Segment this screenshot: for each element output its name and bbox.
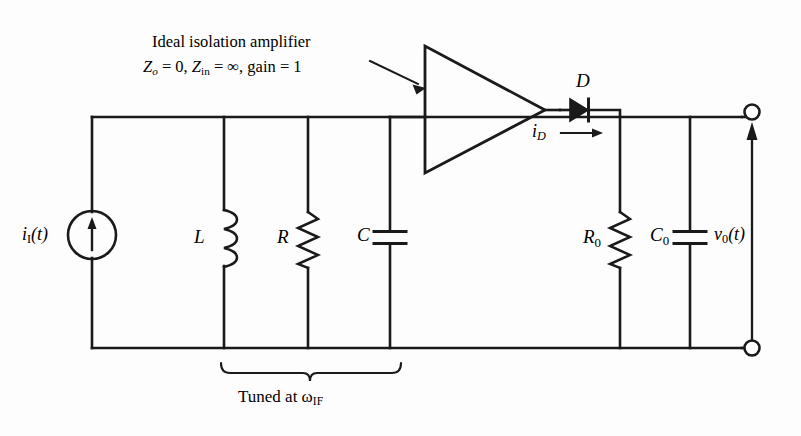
output-voltage-time: (t) (728, 224, 745, 244)
amplifier-triangle (425, 46, 545, 173)
amplifier-annotation-line1: Ideal isolation amplifier (152, 31, 311, 52)
diode-current-subscript: D (537, 129, 546, 143)
current-source-time: (t) (31, 224, 48, 244)
output-resistor-symbol: R (583, 226, 595, 247)
output-resistor-label: R0 (583, 226, 601, 251)
current-source-arrow-head (88, 217, 97, 229)
capacitor-label: C (357, 224, 370, 246)
output-voltage-arrow-head (747, 122, 758, 140)
omega-subscript: IF (313, 395, 323, 408)
diode-label: D (576, 70, 590, 92)
output-terminal-bottom (745, 341, 760, 356)
output-capacitor-symbol: C (650, 224, 663, 245)
current-source-label: iI(t) (22, 224, 48, 247)
output-voltage-symbol: v (714, 224, 722, 244)
amplifier-annotation-line2: Zo = 0, Zin = ∞, gain = 1 (143, 56, 302, 82)
z-out-symbol: Z (143, 57, 152, 76)
omega-symbol: ω (302, 387, 313, 406)
z-in-symbol: Z (192, 57, 201, 76)
output-capacitor-label: C0 (650, 224, 669, 249)
diode-current-label: iD (532, 121, 546, 144)
resistor-label: R (277, 226, 289, 248)
output-resistor-subscript: 0 (595, 235, 601, 250)
tuned-brace (221, 363, 401, 381)
figure-canvas: Ideal isolation amplifier Zo = 0, Zin = … (0, 0, 801, 436)
inductor-coil (224, 210, 237, 267)
output-capacitor-subscript: 0 (663, 233, 669, 248)
gain-equation: = ∞, gain = 1 (210, 57, 302, 76)
output-resistor-zigzag (610, 212, 630, 268)
z-out-equation: = 0, (158, 57, 192, 76)
resistor-zigzag (298, 212, 318, 268)
output-voltage-label: v0(t) (714, 224, 745, 247)
diode-current-arrow-head (592, 129, 603, 138)
circuit-schematic (0, 0, 801, 436)
z-in-subscript: in (201, 65, 210, 77)
inductor-label: L (194, 226, 205, 248)
tuned-caption: Tuned at ωIF (238, 387, 323, 408)
annotation-pointer-shaft (370, 61, 418, 84)
output-terminal-top (745, 105, 760, 120)
tuned-caption-text: Tuned at (238, 387, 302, 406)
